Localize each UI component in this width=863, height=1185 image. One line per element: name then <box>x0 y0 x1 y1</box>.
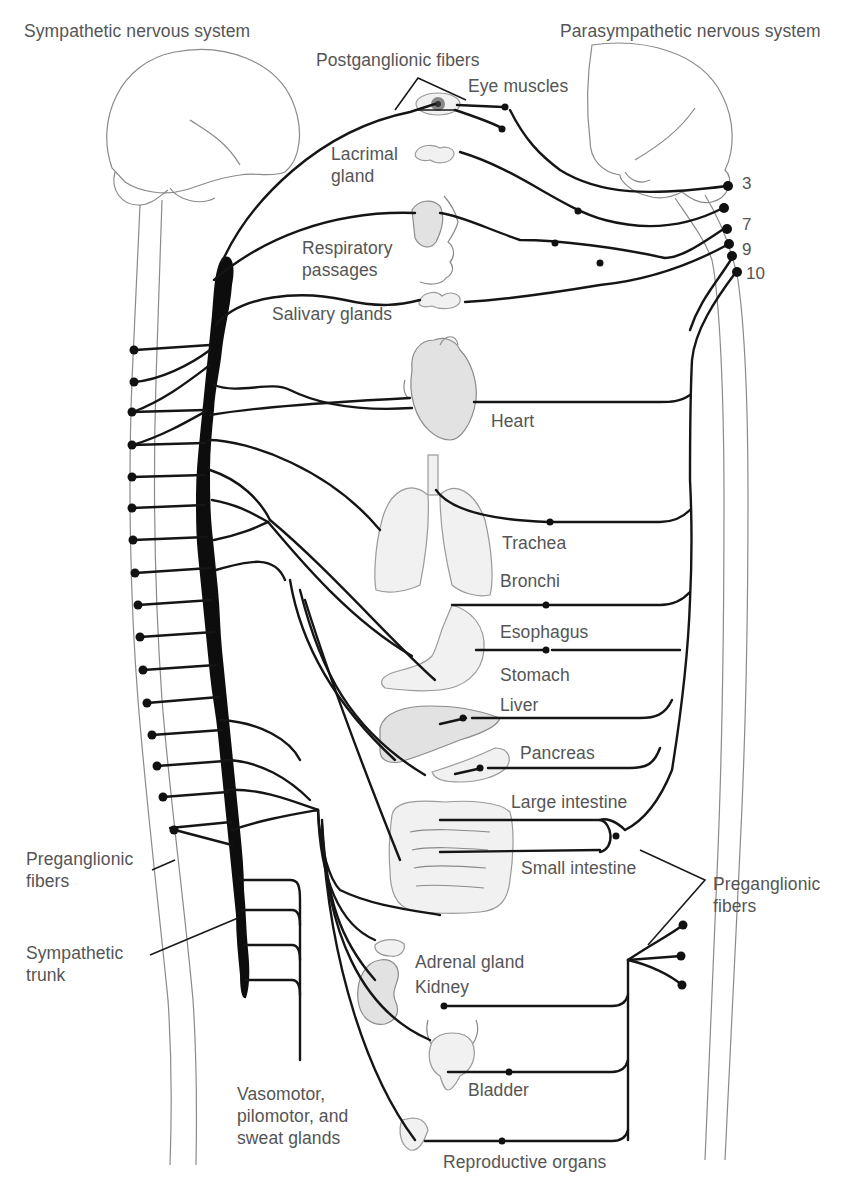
label-salivary-glands: Salivary glands <box>272 304 392 324</box>
label-pancreas: Pancreas <box>520 743 595 763</box>
label-bronchi: Bronchi <box>500 571 560 591</box>
label-kidney: Kidney <box>415 977 469 997</box>
label-reproductive-organs: Reproductive organs <box>443 1152 606 1172</box>
sympathetic-trunk-pointer <box>150 918 238 955</box>
label-adrenal-gland: Adrenal gland <box>415 952 524 972</box>
lacrimal-gland-icon <box>415 145 454 162</box>
face-profile-icon <box>412 196 458 284</box>
parasympathetic-nerves <box>436 105 736 852</box>
label-trachea: Trachea <box>502 533 566 553</box>
label-small-intestine: Small intestine <box>521 858 636 878</box>
label-large-intestine: Large intestine <box>511 792 627 812</box>
label-liver: Liver <box>500 695 538 715</box>
diagram-canvas <box>0 0 863 1185</box>
label-sympathetic-trunk: Sympathetic trunk <box>26 942 123 986</box>
label-bladder: Bladder <box>468 1080 529 1100</box>
label-cranial-nerve-10: 10 <box>746 264 765 284</box>
heart-icon <box>404 337 476 440</box>
right-spinal-cord-icon <box>675 195 748 1160</box>
label-preganglionic-fibers-right: Preganglionic fibers <box>713 873 820 917</box>
intestines-icon <box>389 801 513 913</box>
label-cranial-nerve-9: 9 <box>742 240 751 260</box>
label-vasomotor-pilomotor-sweat-glands: Vasomotor, pilomotor, and sweat glands <box>237 1083 348 1149</box>
title-sympathetic: Sympathetic nervous system <box>24 21 250 41</box>
left-brain-icon <box>107 49 300 205</box>
salivary-glands-icon <box>419 293 460 309</box>
spinal-dots-left <box>128 346 179 835</box>
left-spinal-cord-icon <box>130 200 197 1165</box>
label-preganglionic-fibers-left: Preganglionic fibers <box>26 848 133 892</box>
title-parasympathetic: Parasympathetic nervous system <box>560 21 821 41</box>
label-eye-muscles: Eye muscles <box>468 76 568 96</box>
eye-icon <box>416 93 460 115</box>
sympathetic-trunk-chain <box>196 257 249 999</box>
autonomic-nervous-system-diagram: Sympathetic nervous system Parasympathet… <box>0 0 863 1185</box>
cranial-nerve-dots <box>719 181 742 277</box>
label-postganglionic-fibers: Postganglionic fibers <box>316 50 480 70</box>
label-cranial-nerve-3: 3 <box>742 174 751 194</box>
label-heart: Heart <box>491 411 534 431</box>
label-respiratory-passages: Respiratory passages <box>302 237 393 281</box>
label-cranial-nerve-7: 7 <box>742 215 751 235</box>
label-esophagus: Esophagus <box>500 622 588 642</box>
preganglionic-left-pointer <box>152 860 175 870</box>
lungs-icon <box>375 455 492 596</box>
label-lacrimal-gland: Lacrimal gland <box>331 143 398 187</box>
pancreas-icon <box>432 748 509 782</box>
adrenal-gland-icon <box>375 940 404 957</box>
label-stomach: Stomach <box>500 665 570 685</box>
kidney-icon <box>358 960 399 1025</box>
right-brain-icon <box>587 43 732 203</box>
